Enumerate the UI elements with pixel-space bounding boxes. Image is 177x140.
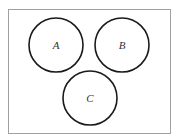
set-b: B (95, 18, 149, 72)
set-b-label: B (119, 39, 126, 51)
venn-diagram: A B C (0, 0, 177, 140)
set-a-label: A (52, 39, 60, 51)
set-c: C (63, 71, 117, 125)
set-c-label: C (86, 92, 94, 104)
set-a: A (29, 18, 83, 72)
